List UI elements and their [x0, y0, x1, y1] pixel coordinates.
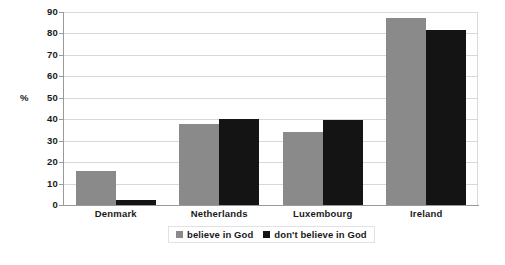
y-tick: 90	[0, 7, 58, 17]
bar-group	[64, 12, 168, 205]
bar-group	[375, 12, 479, 205]
y-axis-title: %	[20, 92, 28, 103]
bar-group	[168, 12, 272, 205]
y-tick: 70	[0, 50, 58, 60]
y-tick: 60	[0, 71, 58, 81]
x-axis-line	[63, 205, 479, 206]
x-label-netherlands: Netherlands	[168, 208, 272, 219]
bar-dont-believe[interactable]	[116, 200, 156, 205]
y-tick-mark	[59, 98, 63, 99]
y-tick-mark	[59, 141, 63, 142]
y-tick-label: 80	[4, 28, 58, 38]
bar-group	[271, 12, 375, 205]
y-axis-ticks: 9080706050403020100	[0, 0, 58, 265]
y-tick-mark	[59, 55, 63, 56]
y-tick-label: 10	[4, 179, 58, 189]
legend-label: don't believe in God	[274, 230, 366, 240]
y-tick: 30	[0, 136, 58, 146]
y-tick: 20	[0, 157, 58, 167]
legend-swatch-black	[263, 231, 270, 238]
bar-chart: 9080706050403020100 % DenmarkNetherlands…	[0, 0, 505, 265]
y-tick-mark	[59, 76, 63, 77]
y-tick-label: 70	[4, 50, 58, 60]
y-tick-label: 60	[4, 71, 58, 81]
bar-dont-believe[interactable]	[219, 119, 259, 205]
bars-layer	[64, 12, 478, 205]
bar-believe[interactable]	[179, 124, 219, 205]
y-tick-mark	[59, 162, 63, 163]
y-tick: 0	[0, 200, 58, 210]
legend-item[interactable]: don't believe in God	[263, 230, 366, 240]
x-axis-category-labels: DenmarkNetherlandsLuxembourgIreland	[64, 208, 478, 224]
x-label-denmark: Denmark	[64, 208, 168, 219]
chart-legend: believe in Goddon't believe in God	[168, 226, 375, 243]
y-tick-mark	[59, 184, 63, 185]
x-label-ireland: Ireland	[375, 208, 479, 219]
y-tick-mark	[59, 205, 63, 206]
bar-dont-believe[interactable]	[323, 120, 363, 205]
y-tick-label: 20	[4, 157, 58, 167]
legend-item[interactable]: believe in God	[176, 230, 253, 240]
y-tick-label: 90	[4, 7, 58, 17]
legend-swatch-gray	[176, 231, 183, 238]
y-tick-label: 40	[4, 114, 58, 124]
bar-dont-believe[interactable]	[426, 30, 466, 205]
y-tick-mark	[59, 119, 63, 120]
y-tick-label: 30	[4, 136, 58, 146]
y-tick-label: 50	[4, 93, 58, 103]
y-tick: 80	[0, 28, 58, 38]
legend-label: believe in God	[187, 230, 253, 240]
y-tick: 40	[0, 114, 58, 124]
bar-believe[interactable]	[283, 132, 323, 205]
y-tick: 10	[0, 179, 58, 189]
y-tick: 50	[0, 93, 58, 103]
y-tick-label: 0	[4, 200, 58, 210]
y-tick-mark	[59, 33, 63, 34]
y-tick-mark	[59, 12, 63, 13]
x-label-luxembourg: Luxembourg	[271, 208, 375, 219]
bar-believe[interactable]	[386, 18, 426, 205]
bar-believe[interactable]	[76, 171, 116, 205]
